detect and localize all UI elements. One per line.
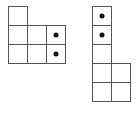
grid-cell xyxy=(27,25,47,45)
grid-cell xyxy=(92,44,112,64)
grid-cell xyxy=(111,63,131,83)
grid-cell xyxy=(46,44,66,64)
grid-cell xyxy=(92,82,112,102)
grid-cell xyxy=(92,63,112,83)
grid-cell xyxy=(8,25,28,45)
dot-marker-icon xyxy=(100,14,105,19)
grid-cell xyxy=(8,6,28,26)
right-shape xyxy=(92,6,132,106)
grid-cell xyxy=(92,6,112,26)
grid-cell xyxy=(92,25,112,45)
grid-cell xyxy=(111,82,131,102)
grid-cell xyxy=(27,44,47,64)
dot-marker-icon xyxy=(54,52,59,57)
grid-cell xyxy=(8,44,28,64)
dot-marker-icon xyxy=(54,33,59,38)
dot-marker-icon xyxy=(100,33,105,38)
grid-cell xyxy=(46,25,66,45)
left-shape xyxy=(8,6,68,66)
